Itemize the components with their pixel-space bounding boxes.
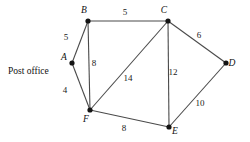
node-label-c: C [161, 5, 168, 15]
node-label-e: E [171, 126, 178, 136]
edges-group [72, 21, 226, 127]
node-c [165, 18, 170, 23]
node-label-a: A [60, 52, 67, 62]
annotations-group: Post office [8, 66, 49, 76]
node-b [85, 18, 90, 23]
edge-a-f [72, 63, 90, 110]
edge-weight-c-e: 12 [169, 67, 178, 77]
edge-a-b [72, 21, 88, 63]
edge-weight-c-f: 14 [124, 73, 134, 83]
graph-figure: ABCDEF 545861214108 Post office [0, 0, 250, 142]
node-label-b: B [81, 5, 87, 15]
node-label-f: F [82, 114, 89, 124]
edge-d-e [169, 63, 226, 127]
edge-weight-b-c: 5 [123, 7, 128, 17]
edge-b-f [88, 21, 90, 110]
edge-weight-d-e: 10 [196, 98, 206, 108]
edge-weight-a-b: 5 [64, 32, 69, 42]
node-a [69, 60, 74, 65]
graph-canvas: ABCDEF 545861214108 Post office [0, 0, 250, 142]
edge-weight-f-e: 8 [122, 123, 127, 133]
edge-weight-a-f: 4 [63, 85, 68, 95]
edge-weight-b-f: 8 [92, 58, 97, 68]
post-office-label: Post office [8, 66, 49, 76]
node-e [166, 124, 171, 129]
edge-f-e [90, 110, 169, 127]
edge-c-d [168, 21, 226, 63]
edge-weight-c-d: 6 [197, 30, 202, 40]
node-label-d: D [228, 58, 236, 68]
node-f [87, 107, 92, 112]
edge-c-f [90, 21, 168, 110]
